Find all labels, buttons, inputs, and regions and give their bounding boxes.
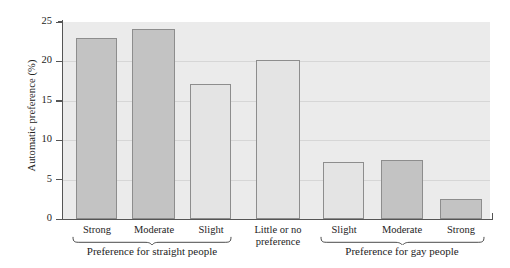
bar-strong-straight xyxy=(76,38,117,219)
y-tick-label-10: 10 xyxy=(12,134,52,145)
y-tick-0 xyxy=(56,219,62,220)
y-tick-5 xyxy=(56,179,62,180)
group-label-straight: Preference for straight people xyxy=(52,245,252,257)
bar-chart-figure: Automatic preference (%) 25 20 15 10 5 0… xyxy=(0,0,510,268)
y-tick-10 xyxy=(56,140,62,141)
bar-moderate-gay xyxy=(381,160,423,219)
y-tick-20 xyxy=(56,61,62,62)
y-axis-line xyxy=(62,20,63,220)
x-axis-right-cap xyxy=(492,213,493,219)
y-tick-label-15: 15 xyxy=(12,95,52,106)
bar-slight-straight xyxy=(190,84,231,219)
bar-slight-gay xyxy=(323,162,364,219)
group-brace-straight xyxy=(72,236,232,245)
category-label-strong-gay: Strong xyxy=(420,224,502,236)
y-tick-15 xyxy=(56,100,62,101)
bar-strong-gay xyxy=(440,199,482,219)
y-axis-title: Automatic preference (%) xyxy=(26,16,37,216)
y-tick-label-20: 20 xyxy=(12,55,52,66)
bar-moderate-straight xyxy=(132,29,175,219)
group-label-gay: Preference for gay people xyxy=(312,245,492,257)
y-tick-label-25: 25 xyxy=(12,16,52,27)
group-brace-gay xyxy=(320,236,485,245)
bar-little-or-no-preference xyxy=(256,60,300,219)
y-tick-label-0: 0 xyxy=(12,213,52,224)
y-tick-label-5: 5 xyxy=(12,174,52,185)
y-tick-25 xyxy=(56,22,62,23)
